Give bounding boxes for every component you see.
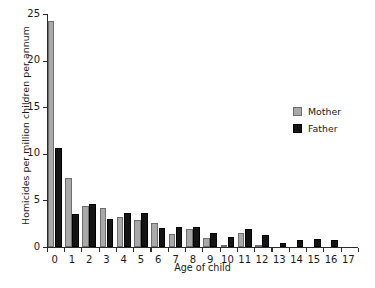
x-axis-tick (64, 248, 65, 252)
bar-father-age-4 (124, 213, 131, 247)
bar-father-age-7 (176, 227, 183, 248)
bar-father-age-3 (107, 219, 114, 247)
bar-mother-age-10 (221, 245, 228, 247)
x-axis-tick (81, 248, 82, 252)
x-axis-tick (47, 248, 48, 252)
y-axis-tick: 15 (43, 107, 47, 108)
x-axis-tick (185, 248, 186, 252)
bar-father-age-5 (141, 213, 148, 247)
bar-father-age-11 (245, 229, 252, 247)
y-axis-tick: 10 (43, 154, 47, 155)
bar-mother-age-0 (48, 21, 55, 247)
bar-mother-age-8 (186, 229, 193, 247)
y-axis-tick: 25 (43, 14, 47, 15)
caption-sliver (2, 279, 242, 288)
legend-item-mother: Mother (293, 103, 341, 120)
y-axis-tick-label: 15 (27, 101, 40, 113)
legend-swatch-father (293, 124, 302, 133)
x-axis-tick (358, 248, 359, 252)
y-axis-tick-label: 20 (27, 54, 40, 66)
x-axis-tick (220, 248, 221, 252)
chart-legend: MotherFather (293, 103, 341, 137)
x-axis-tick (341, 248, 342, 252)
y-axis-tick-label: 0 (34, 241, 40, 253)
legend-item-father: Father (293, 120, 341, 137)
x-axis-tick (150, 248, 151, 252)
bar-father-age-12 (262, 235, 269, 247)
y-axis-tick-label: 10 (27, 147, 40, 159)
bar-father-age-10 (228, 237, 235, 247)
bar-father-age-1 (72, 214, 79, 247)
x-axis-title: Age of child (47, 262, 358, 273)
bar-mother-age-1 (65, 178, 72, 247)
bar-mother-age-5 (134, 220, 141, 247)
bar-mother-age-4 (117, 217, 124, 247)
bar-mother-age-7 (169, 234, 176, 247)
homicides-by-age-bar-chart: Homicides per million children per annum… (0, 0, 375, 288)
x-axis-tick (202, 248, 203, 252)
x-axis-tick (116, 248, 117, 252)
bar-mother-age-3 (100, 208, 107, 247)
bar-mother-age-2 (82, 206, 89, 247)
x-axis-tick (271, 248, 272, 252)
legend-label: Mother (308, 106, 341, 117)
y-axis-tick-label: 5 (34, 194, 40, 206)
y-axis-title: Homicides per million children per annum (20, 6, 31, 246)
bar-mother-age-6 (151, 223, 158, 247)
bar-father-age-15 (314, 239, 321, 247)
x-axis-tick (133, 248, 134, 252)
bar-father-age-14 (297, 240, 304, 247)
bar-father-age-16 (331, 240, 338, 247)
bar-father-age-6 (159, 228, 166, 247)
x-axis-tick (254, 248, 255, 252)
x-axis-tick (306, 248, 307, 252)
bar-mother-age-12 (255, 245, 262, 247)
bar-father-age-0 (55, 148, 62, 247)
bar-father-age-9 (210, 233, 217, 247)
x-axis-tick (168, 248, 169, 252)
x-axis-tick (289, 248, 290, 252)
bar-father-age-8 (193, 227, 200, 248)
x-axis-tick (237, 248, 238, 252)
y-axis-tick: 20 (43, 61, 47, 62)
x-axis-tick (99, 248, 100, 252)
bar-father-age-13 (280, 243, 287, 247)
y-axis-tick: 5 (43, 200, 47, 201)
x-axis-tick (323, 248, 324, 252)
legend-swatch-mother (293, 107, 302, 116)
bar-father-age-2 (89, 204, 96, 247)
bar-mother-age-9 (203, 238, 210, 247)
bar-mother-age-11 (238, 233, 245, 247)
y-axis-tick-label: 25 (27, 8, 40, 20)
legend-label: Father (308, 123, 338, 134)
